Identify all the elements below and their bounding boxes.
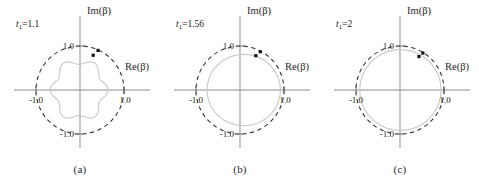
plot-a: -1.01.01.0-1.0Im(β)Re(β)t1=1.1 (0, 0, 160, 166)
axis-label-real: Re(β) (445, 61, 470, 73)
tick-label-y-pos: 1.0 (63, 41, 75, 51)
axis-label-real: Re(β) (125, 61, 150, 73)
origin-marker (79, 89, 81, 91)
data-point (421, 51, 424, 54)
tick-label-y-neg: -1.0 (60, 129, 75, 139)
panel-caption-b: (b) (160, 163, 320, 175)
axis-label-imaginary: Im(β) (87, 5, 112, 17)
panel-b: -1.01.01.0-1.0Im(β)Re(β)t1=1.56(b) (160, 0, 320, 193)
axis-label-imaginary: Im(β) (407, 5, 432, 17)
data-point (96, 49, 99, 52)
tick-label-x-neg: -1.0 (29, 95, 44, 105)
parameter-label: t1=1.56 (176, 19, 204, 31)
tick-label-y-pos: 1.0 (383, 41, 395, 51)
parameter-label: t1=1.1 (16, 19, 40, 31)
data-point (254, 54, 257, 57)
plot-b: -1.01.01.0-1.0Im(β)Re(β)t1=1.56 (160, 0, 320, 166)
origin-marker (399, 89, 401, 91)
tick-label-y-neg: -1.0 (220, 129, 235, 139)
panel-c: -1.01.01.0-1.0Im(β)Re(β)t1=2(c) (320, 0, 479, 193)
axis-label-imaginary: Im(β) (247, 5, 272, 17)
tick-label-x-pos: 1.0 (439, 95, 451, 105)
origin-marker (239, 89, 241, 91)
panel-a: -1.01.01.0-1.0Im(β)Re(β)t1=1.1(a) (0, 0, 160, 193)
data-point (259, 50, 262, 53)
parameter-label: t1=2 (336, 19, 352, 31)
tick-label-y-pos: 1.0 (223, 41, 235, 51)
axis-label-real: Re(β) (285, 61, 310, 73)
panel-caption-c: (c) (320, 163, 479, 175)
data-point (417, 55, 420, 58)
tick-label-x-pos: 1.0 (279, 95, 291, 105)
plot-c: -1.01.01.0-1.0Im(β)Re(β)t1=2 (320, 0, 479, 166)
tick-label-y-neg: -1.0 (380, 129, 395, 139)
tick-label-x-neg: -1.0 (189, 95, 204, 105)
tick-label-x-pos: 1.0 (119, 95, 131, 105)
panel-caption-a: (a) (0, 163, 160, 175)
figure-container: -1.01.01.0-1.0Im(β)Re(β)t1=1.1(a)-1.01.0… (0, 0, 479, 193)
tick-label-x-neg: -1.0 (349, 95, 364, 105)
data-point (92, 54, 95, 57)
